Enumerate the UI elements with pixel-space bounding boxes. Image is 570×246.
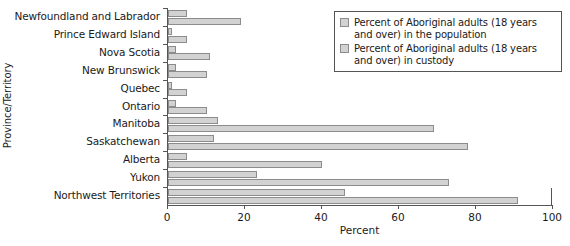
bar: [168, 82, 172, 89]
y-axis-tick: [163, 8, 167, 9]
x-axis-tick: [167, 205, 168, 209]
bar: [168, 10, 187, 17]
y-axis-category-labels: Newfoundland and LabradorPrince Edward I…: [14, 8, 164, 205]
bar: [168, 89, 187, 96]
x-axis-line: [167, 205, 552, 206]
y-axis-category-label: New Brunswick: [12, 65, 160, 76]
y-axis-category-label: Manitoba: [12, 118, 160, 129]
bar: [168, 100, 176, 107]
x-axis-tick: [552, 205, 553, 209]
x-axis-tick-label: 20: [237, 211, 250, 223]
legend-item-custody: Percent of Aboriginal adults (18 years a…: [340, 43, 555, 66]
x-axis-tick-label: 0: [164, 211, 171, 223]
y-axis-tick: [163, 62, 167, 63]
y-axis-category-label: Nova Scotia: [12, 47, 160, 58]
bar: [168, 36, 187, 43]
x-axis-tick-label: 100: [542, 211, 562, 223]
bar: [168, 189, 345, 196]
bar: [168, 107, 207, 114]
x-axis-tick: [475, 205, 476, 209]
legend-label-custody: Percent of Aboriginal adults (18 years a…: [354, 43, 555, 66]
x-axis-tick: [398, 205, 399, 209]
y-axis-tick: [163, 133, 167, 134]
x-axis-tick-label: 60: [391, 211, 404, 223]
bar: [168, 117, 218, 124]
bar: [168, 143, 468, 150]
bar-chart: Province/Territory Newfoundland and Labr…: [0, 0, 570, 246]
y-axis-category-label: Quebec: [12, 83, 160, 94]
bar: [168, 18, 241, 25]
x-axis-tick-label: 40: [314, 211, 327, 223]
y-axis-category-label: Northwest Territories: [12, 190, 160, 201]
y-axis-tick: [163, 44, 167, 45]
x-axis-tick: [244, 205, 245, 209]
y-axis-tick: [163, 26, 167, 27]
bar: [168, 179, 449, 186]
y-axis-category-label: Ontario: [12, 101, 160, 112]
legend-label-population: Percent of Aboriginal adults (18 years a…: [354, 17, 555, 40]
bar: [168, 71, 207, 78]
legend-swatch-custody: [340, 44, 349, 53]
y-axis-tick: [163, 169, 167, 170]
bar: [168, 125, 434, 132]
bar: [168, 46, 176, 53]
bar: [168, 53, 210, 60]
x-axis-tick-label: 80: [468, 211, 481, 223]
chart-legend: Percent of Aboriginal adults (18 years a…: [334, 11, 562, 72]
x-axis-title: Percent: [167, 224, 552, 236]
right-axis-spine: [551, 188, 552, 205]
bar: [168, 161, 322, 168]
bar: [168, 153, 187, 160]
y-axis-tick: [163, 151, 167, 152]
bar: [168, 28, 172, 35]
x-axis-tick: [321, 205, 322, 209]
bar: [168, 64, 176, 71]
y-axis-category-label: Newfoundland and Labrador: [12, 11, 160, 22]
y-axis-tick: [163, 115, 167, 116]
y-axis-tick: [163, 80, 167, 81]
bar: [168, 197, 518, 204]
legend-item-population: Percent of Aboriginal adults (18 years a…: [340, 17, 555, 40]
y-axis-category-label: Alberta: [12, 154, 160, 165]
legend-swatch-population: [340, 18, 349, 27]
y-axis-category-label: Saskatchewan: [12, 136, 160, 147]
y-axis-tick: [163, 98, 167, 99]
y-axis-tick: [163, 187, 167, 188]
bar: [168, 171, 257, 178]
bar: [168, 135, 214, 142]
y-axis-category-label: Yukon: [12, 172, 160, 183]
y-axis-category-label: Prince Edward Island: [12, 29, 160, 40]
